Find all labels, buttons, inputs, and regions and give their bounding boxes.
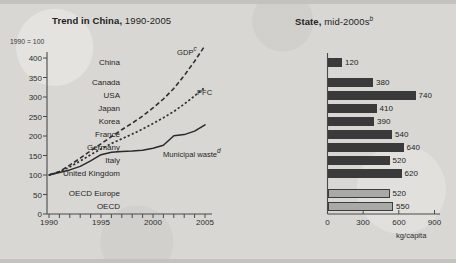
bar-label-china: China <box>24 58 120 67</box>
bar-axis-units-label: kg/capita <box>396 231 426 240</box>
bar-x-tick-600: 600 <box>384 218 414 227</box>
series-label-municipal-waste-superscript: d <box>217 147 221 154</box>
bar-x-tick-300: 300 <box>348 218 378 227</box>
bar-x-tick-900: 900 <box>420 218 450 227</box>
bar-x-axis-ticks <box>328 210 435 214</box>
bar-label-korea: Korea <box>24 117 120 126</box>
bar-label-oecd-europe: OECD Europe <box>24 189 120 198</box>
x-axis-ticks <box>49 214 205 218</box>
series-label-gdp-text: GDP <box>177 48 193 57</box>
series-label-municipal-waste-text: Municipal waste <box>163 150 217 159</box>
bar-x-tick-0: 0 <box>313 218 343 227</box>
figure-canvas: Trend in China, 1990-2005 1990 = 100 400… <box>0 0 456 263</box>
series-label-gdp: GDPc <box>177 45 197 57</box>
series-label-municipal-waste: Municipal wasted <box>163 147 221 159</box>
bar-label-italy: Italy <box>24 156 120 165</box>
bar-chart-panel: State, mid-2000sb China 120 Canada 380 U… <box>250 0 456 263</box>
series-label-gdp-superscript: c <box>193 45 196 52</box>
bar-label-germany: Germany <box>24 143 120 152</box>
bar-label-united-kingdom: United Kingdom <box>24 169 120 178</box>
bar-label-oecd: OECD <box>24 202 120 211</box>
bar-label-france: France <box>24 130 120 139</box>
bar-label-usa: USA <box>24 91 120 100</box>
bar-label-canada: Canada <box>24 78 120 87</box>
series-label-pfc: PFC <box>197 88 212 97</box>
bar-label-japan: Japan <box>24 104 120 113</box>
